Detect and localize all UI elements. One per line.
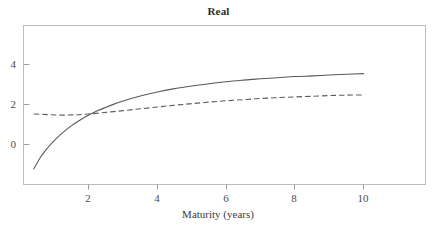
x-tick-label-2: 2: [85, 192, 91, 204]
y-tick-label-0: 0: [11, 138, 17, 150]
chart-plot-area: 4 2 0 2 4 6 8 10 Maturity (years): [0, 0, 437, 227]
x-tick-label-10: 10: [358, 192, 370, 204]
y-axis-ticks: [24, 65, 30, 145]
plot-frame: [24, 26, 426, 185]
x-tick-label-6: 6: [223, 192, 229, 204]
series-dashed-curve: [34, 95, 364, 115]
x-tick-label-4: 4: [154, 192, 160, 204]
y-tick-label-4: 4: [11, 58, 17, 70]
x-axis-ticks: [89, 185, 364, 190]
series-solid-curve: [34, 74, 364, 169]
chart-page: Real 4 2 0 2 4 6 8 10 Maturity (years): [0, 0, 437, 227]
x-axis-title: Maturity (years): [182, 208, 254, 221]
y-tick-label-2: 2: [11, 98, 17, 110]
x-tick-label-8: 8: [291, 192, 297, 204]
